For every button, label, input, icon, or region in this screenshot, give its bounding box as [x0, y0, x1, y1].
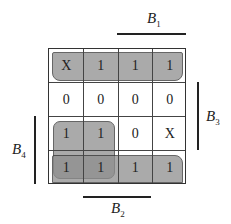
cell-r3-c0: 1	[49, 151, 84, 185]
cell-r2-c1: 1	[84, 117, 119, 151]
cell-r0-c1: 1	[84, 49, 119, 83]
grid-line	[49, 150, 185, 151]
cell-r2-c3: X	[153, 117, 188, 151]
cell-r2-c2: 0	[118, 117, 153, 151]
cell-r2-c0: 1	[49, 117, 84, 151]
grid-line	[49, 116, 185, 117]
b3-label: B3	[206, 108, 220, 127]
cell-r3-c3: 1	[153, 151, 188, 185]
cell-r1-c2: 0	[118, 83, 153, 117]
cell-r3-c2: 1	[118, 151, 153, 185]
cell-r1-c0: 0	[49, 83, 84, 117]
cell-r1-c3: 0	[153, 83, 188, 117]
cell-r0-c0: X	[49, 49, 84, 83]
karnaugh-map-grid: X 1 1 1 0 0 0 0 1 1 0 X 1 1 1 1	[48, 48, 186, 184]
grid-line	[49, 82, 185, 83]
b4-bar	[34, 116, 36, 184]
b2-label: B2	[111, 200, 125, 219]
b1-label: B1	[147, 10, 161, 29]
b3-bar	[197, 82, 199, 150]
b1-bar	[117, 33, 186, 35]
b4-label: B4	[12, 141, 26, 160]
cell-r0-c2: 1	[118, 49, 153, 83]
cell-r0-c3: 1	[153, 49, 188, 83]
b2-bar	[83, 196, 151, 198]
cell-r3-c1: 1	[84, 151, 119, 185]
cell-r1-c1: 0	[84, 83, 119, 117]
